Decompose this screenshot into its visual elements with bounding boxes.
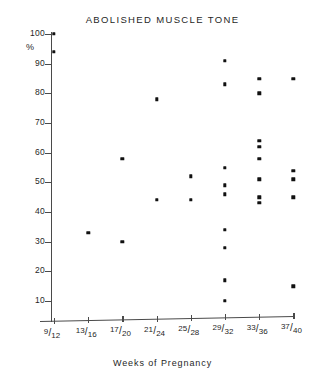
data-point: [223, 83, 226, 86]
x-tick-denominator: 12: [51, 331, 60, 340]
x-tick-numerator: 17: [110, 325, 119, 334]
data-point: [257, 139, 260, 142]
plot-area: 102030405060708090100 % 9/1213/1617/2021…: [0, 0, 325, 384]
y-axis-tick-mark: [45, 34, 51, 35]
data-point: [121, 240, 124, 243]
data-point: [223, 184, 226, 187]
x-axis-tick-label: 25/28: [178, 324, 199, 337]
y-axis-tick-mark: [45, 123, 51, 124]
data-point: [257, 157, 260, 160]
y-axis-tick-mark: [45, 301, 51, 302]
x-tick-numerator: 37: [281, 322, 290, 331]
y-axis-tick-mark: [45, 242, 51, 243]
x-axis-label: Weeks of Pregnancy: [0, 358, 325, 368]
x-axis-tick-label: 33/36: [247, 323, 268, 336]
x-tick-numerator: 33: [247, 323, 256, 332]
x-tick-denominator: 32: [225, 327, 234, 336]
data-point: [189, 175, 192, 178]
data-point: [257, 195, 260, 198]
x-axis-line: [40, 316, 294, 322]
data-point: [223, 299, 226, 302]
data-point: [257, 77, 260, 80]
data-point: [86, 231, 89, 234]
data-point: [223, 246, 226, 249]
y-axis-tick-label-text: 80: [19, 88, 45, 97]
x-axis-tick-mark: [225, 314, 226, 320]
y-axis-tick-label: 80: [0, 88, 45, 98]
x-axis-tick-mark: [259, 314, 260, 320]
y-axis-tick-label: 30: [0, 237, 45, 247]
data-point: [257, 92, 260, 95]
data-point: [189, 198, 192, 201]
x-axis-tick-mark: [88, 317, 89, 323]
y-axis-tick-label-text: 90: [19, 59, 45, 68]
x-axis-tick-mark: [191, 315, 192, 321]
x-tick-denominator: 40: [293, 326, 302, 335]
x-tick-denominator: 36: [259, 327, 268, 336]
data-point: [292, 178, 295, 181]
x-axis-tick-label: 21/24: [144, 325, 165, 338]
x-axis-tick-label: 29/32: [213, 323, 234, 336]
data-point: [292, 77, 295, 80]
y-axis-tick-label: 50: [0, 177, 45, 187]
y-axis-tick-label: 60: [0, 148, 45, 158]
x-tick-numerator: 21: [144, 325, 153, 334]
y-axis-tick-label: 100: [0, 29, 45, 39]
y-axis-tick-label: 40: [0, 207, 45, 217]
x-tick-denominator: 20: [122, 329, 131, 338]
y-axis-tick-label-text: 20: [19, 266, 45, 275]
x-tick-denominator: 16: [88, 330, 97, 339]
y-axis-tick-mark: [45, 93, 51, 94]
x-axis-tick-label: 17/20: [110, 325, 131, 338]
data-point: [155, 98, 158, 101]
data-point: [52, 32, 55, 35]
y-axis-tick-label: 10: [0, 296, 45, 306]
y-axis-tick-label: 90: [0, 59, 45, 69]
y-axis-tick-label-text: 70: [19, 118, 45, 127]
data-point: [223, 278, 226, 281]
x-axis-tick-mark: [293, 313, 294, 319]
y-axis-tick-label-text: 30: [19, 237, 45, 246]
y-axis-line: [51, 32, 52, 322]
y-axis-tick-mark: [45, 64, 51, 65]
data-point: [223, 228, 226, 231]
data-point: [292, 169, 295, 172]
y-axis-tick-label: 20: [0, 266, 45, 276]
x-axis-tick-mark: [157, 316, 158, 322]
x-tick-denominator: 28: [190, 328, 199, 337]
x-axis-tick-mark: [122, 316, 123, 322]
x-tick-denominator: 24: [156, 329, 165, 338]
x-axis-tick-label: 37/40: [281, 322, 302, 335]
x-axis-tick-label: 9/12: [44, 327, 61, 340]
x-tick-numerator: 25: [178, 324, 187, 333]
data-point: [52, 50, 55, 53]
y-axis-tick-mark: [45, 271, 51, 272]
data-point: [257, 145, 260, 148]
x-axis-tick-mark: [54, 318, 55, 324]
data-point: [292, 195, 295, 198]
data-point: [223, 59, 226, 62]
data-point: [223, 192, 226, 195]
data-point: [121, 157, 124, 160]
y-axis-tick-label-text: 10: [19, 296, 45, 305]
y-axis-tick-label-text: 100: [19, 29, 45, 38]
y-axis-unit-label: %: [26, 42, 34, 52]
y-axis-tick-mark: [45, 212, 51, 213]
x-tick-numerator: 29: [213, 323, 222, 332]
y-axis-tick-label-text: 60: [19, 148, 45, 157]
x-tick-numerator: 13: [76, 326, 85, 335]
scatter-chart-figure: ABOLISHED MUSCLE TONE 102030405060708090…: [0, 0, 325, 384]
x-axis-tick-label: 13/16: [76, 326, 97, 339]
y-axis-tick-label-text: 50: [19, 177, 45, 186]
data-point: [257, 178, 260, 181]
y-axis-tick-mark: [45, 182, 51, 183]
y-axis-tick-mark: [45, 153, 51, 154]
y-axis-tick-label-text: 40: [19, 207, 45, 216]
data-point: [155, 198, 158, 201]
data-point: [292, 284, 295, 287]
y-axis-tick-label: 70: [0, 118, 45, 128]
data-point: [223, 166, 226, 169]
data-point: [257, 201, 260, 204]
